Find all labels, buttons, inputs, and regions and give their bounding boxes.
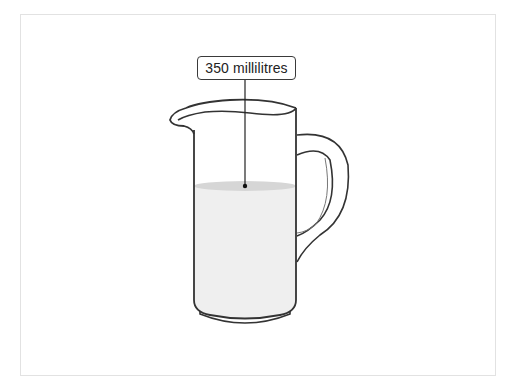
- jug-rim: [170, 100, 296, 134]
- pointer-dot: [243, 184, 247, 188]
- liquid: [194, 186, 296, 319]
- volume-label: 350 millilitres: [197, 56, 296, 80]
